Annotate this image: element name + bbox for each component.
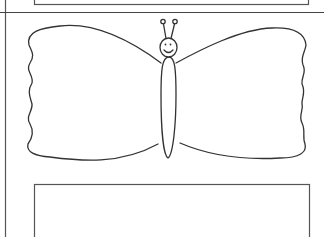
right-wing <box>176 28 306 159</box>
left-eye <box>165 44 167 46</box>
left-antenna-tip <box>161 19 165 23</box>
left-antenna <box>164 24 167 39</box>
right-eye <box>170 44 172 46</box>
butterfly-body <box>161 57 176 158</box>
butterfly <box>28 19 306 160</box>
right-antenna <box>171 24 175 39</box>
coloring-page <box>0 0 324 237</box>
butterfly-head <box>160 38 177 57</box>
top-frame <box>35 0 309 5</box>
left-wing <box>28 25 161 160</box>
bottom-frame <box>35 185 310 238</box>
right-antenna-tip <box>173 19 177 23</box>
